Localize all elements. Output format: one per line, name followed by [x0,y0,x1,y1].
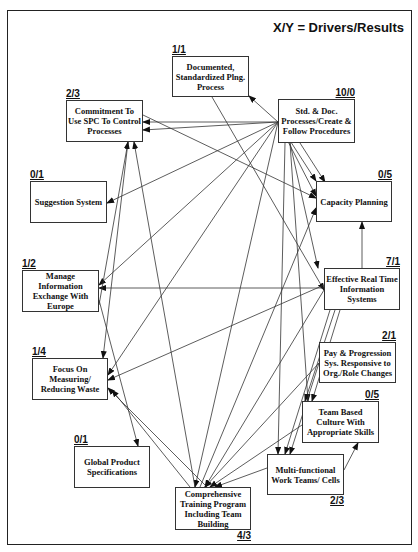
node-label: Std. & Doc. Processes/Create & Follow Pr… [280,106,353,136]
node-manage: Manage Information Exchange With Europe [22,270,99,312]
node-suggestion: Suggestion System [30,181,107,223]
node-label: Comprehensive Training Program Including… [177,489,249,529]
node-documented: Documented, Standardized Plng. Process [172,56,249,97]
node-label: Capacity Planning [320,197,387,207]
node-score: 1/2 [22,258,36,269]
node-score: 2/1 [370,330,396,341]
node-score: 2/3 [318,495,344,506]
node-score: 1/4 [32,346,46,357]
node-label: Manage Information Exchange With Europe [24,271,97,311]
edge-arrow [108,285,324,380]
node-effective: Effective Real Time Information Systems [324,268,400,310]
node-std_doc: Std. & Doc. Processes/Create & Follow Pr… [278,99,355,143]
edge-arrow [143,122,278,130]
node-global: Global Product Specifications [74,446,150,488]
node-commitment: Commitment To Use SPC To Control Process… [66,100,143,142]
node-label: Effective Real Time Information Systems [326,274,398,304]
node-label: Pay & Progression Sys. Responsive to Org… [321,348,394,378]
node-score: 0/1 [74,434,88,445]
node-score: 0/1 [30,169,44,180]
edge-arrow [134,142,195,487]
edge-arrow [249,96,278,122]
node-label: Team Based Culture With Appropriate Skil… [304,407,377,437]
edge-arrow [195,122,278,487]
node-multi: Multi-functional Work Teams/ Cells [267,454,344,495]
node-score: 4/3 [225,530,251,541]
node-label: Multi-functional Work Teams/ Cells [269,465,342,485]
node-team_based: Team Based Culture With Appropriate Skil… [302,401,379,443]
edge-arrow [215,468,267,487]
edge-arrow [200,208,316,487]
node-pay: Pay & Progression Sys. Responsive to Org… [319,342,396,383]
edge-arrow [344,443,358,470]
node-label: Commitment To Use SPC To Control Process… [68,106,141,136]
node-score: 0/5 [353,389,379,400]
node-score: 10/0 [329,87,355,98]
node-score: 0/5 [366,169,392,180]
node-label: Focus On Measuring/ Reducing Waste [34,364,106,394]
edge-arrow [278,143,285,454]
edge-arrow [103,142,128,358]
node-focus: Focus On Measuring/ Reducing Waste [32,358,108,400]
node-score: 2/3 [66,88,80,99]
edge-arrow [108,122,278,375]
edge-arrow [99,122,278,285]
node-score: 7/1 [374,256,400,267]
node-comprehensive: Comprehensive Training Program Including… [175,487,251,530]
node-label: Suggestion System [35,197,102,207]
node-capacity: Capacity Planning [316,181,392,222]
node-label: Documented, Standardized Plng. Process [174,62,247,92]
edge-arrow [99,142,128,305]
node-label: Global Product Specifications [76,457,148,477]
node-score: 1/1 [172,44,186,55]
